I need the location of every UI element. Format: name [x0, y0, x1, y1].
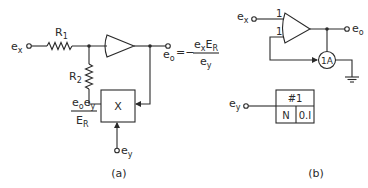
- r2-label: R2: [69, 70, 82, 85]
- ey-label: ey: [121, 144, 133, 159]
- amplifier-triangle: [105, 35, 134, 57]
- r1-label: R1: [55, 26, 68, 41]
- setting-box-title: #1: [288, 93, 303, 104]
- ground-icon: [345, 77, 359, 82]
- setting-box-mode: N: [282, 110, 289, 121]
- resistor-r2: [86, 64, 93, 89]
- output-terminal: [345, 27, 350, 32]
- gain-input-1: 1: [276, 8, 282, 19]
- output-eo-label: eo: [163, 48, 175, 63]
- circuit-diagrams: ex R1 eo =− exER ey R2 X eoey ER: [0, 0, 368, 188]
- setting-box-value: 0.I: [299, 110, 312, 121]
- caption-a: (a): [111, 167, 126, 180]
- ey-label: ey: [229, 97, 241, 112]
- multiplier-label: X: [114, 100, 122, 113]
- input-terminal: [27, 44, 32, 49]
- feedback-wire: [270, 37, 317, 60]
- input-terminal: [252, 17, 257, 22]
- ey-terminal: [115, 148, 120, 153]
- feedback-wire: [136, 46, 150, 104]
- output-eo-label: eo: [352, 22, 364, 37]
- feedback-denominator: ER: [76, 114, 89, 129]
- equation-numerator: exER: [194, 38, 218, 53]
- resistor-r1: [47, 43, 72, 50]
- gain-input-2: 1: [276, 26, 282, 37]
- amplifier-triangle: [283, 13, 311, 43]
- input-ex-label: ex: [11, 40, 23, 55]
- equation-denominator: ey: [200, 55, 212, 70]
- diagram-a: ex R1 eo =− exER ey R2 X eoey ER: [11, 26, 219, 180]
- ey-terminal: [244, 104, 249, 109]
- equation-equals: =−: [176, 46, 194, 59]
- input-ex-label: ex: [237, 10, 249, 25]
- feedback-numerator: eoey: [72, 96, 95, 111]
- multiplier-1a-label: 1A: [321, 56, 334, 66]
- caption-b: (b): [308, 167, 324, 180]
- diagram-b: ex 1 eo 1 1A #1 N 0.I ey: [229, 8, 364, 180]
